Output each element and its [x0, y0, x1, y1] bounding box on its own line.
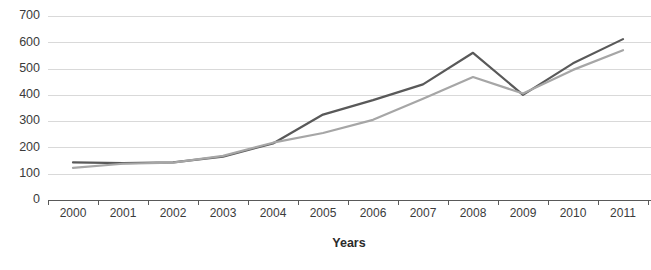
x-tick-label-2010: 2010 [560, 206, 587, 220]
x-tick-label-2011: 2011 [610, 206, 636, 220]
x-tick-label-2006: 2006 [360, 206, 387, 220]
line-series-dark [73, 39, 623, 163]
x-tick-label-2002: 2002 [160, 206, 187, 220]
x-tick-label-2000: 2000 [60, 206, 87, 220]
x-axis-title: Years [332, 236, 365, 250]
x-axis-tick-labels: 2000200120022003200420052006200720082009… [60, 206, 637, 220]
y-tick-label-500: 500 [19, 61, 40, 75]
y-tick-label-400: 400 [19, 87, 40, 101]
data-series-group [73, 39, 623, 168]
line-series-light [73, 50, 623, 168]
x-tick-label-2009: 2009 [510, 206, 537, 220]
y-tick-label-600: 600 [19, 35, 40, 49]
y-tick-label-200: 200 [19, 140, 40, 154]
axis-lines [48, 201, 651, 205]
x-tick-label-2005: 2005 [310, 206, 337, 220]
chart-container: 0100200300400500600700 20002001200220032… [0, 0, 651, 270]
x-tick-label-2008: 2008 [460, 206, 487, 220]
y-tick-label-100: 100 [19, 166, 40, 180]
y-tick-label-300: 300 [19, 113, 40, 127]
line-chart: 0100200300400500600700 20002001200220032… [0, 0, 651, 270]
y-tick-label-0: 0 [33, 192, 40, 206]
x-tick-label-2003: 2003 [210, 206, 237, 220]
x-tick-label-2007: 2007 [410, 206, 437, 220]
x-tick-label-2001: 2001 [110, 206, 137, 220]
gridlines [48, 17, 651, 175]
y-tick-label-700: 700 [19, 8, 40, 22]
x-tick-label-2004: 2004 [260, 206, 287, 220]
y-axis-tick-labels: 0100200300400500600700 [19, 8, 40, 206]
